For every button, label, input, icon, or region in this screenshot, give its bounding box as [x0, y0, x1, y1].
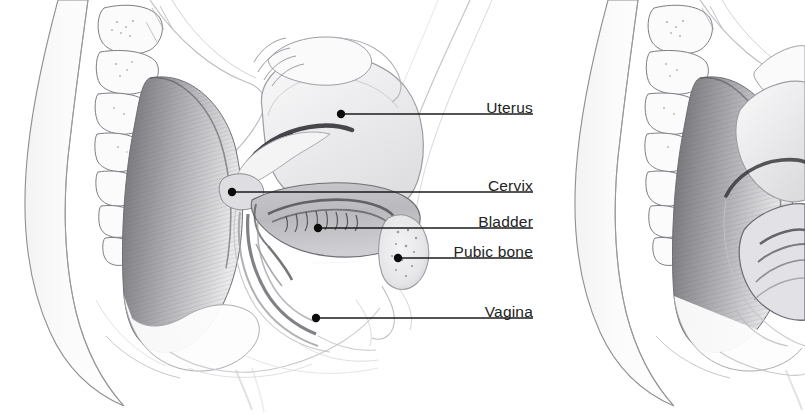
label-vagina: Vagina — [485, 304, 533, 320]
pubic-ramus — [372, 286, 394, 339]
label-bladder: Bladder — [478, 214, 533, 230]
anatomy-illustration — [0, 0, 805, 414]
leader-dot-pubic-bone — [394, 254, 402, 262]
right-panel-art — [575, 0, 805, 410]
label-uterus: Uterus — [486, 100, 533, 116]
left-panel-art — [25, 0, 492, 412]
label-cervix: Cervix — [488, 178, 533, 194]
pubic-bone — [379, 215, 429, 290]
leader-dot-cervix — [228, 188, 236, 196]
leader-dot-uterus — [337, 110, 345, 118]
label-pubic-bone: Pubic bone — [453, 244, 533, 260]
anatomy-figure: Uterus Cervix Bladder Pubic bone Vagina — [0, 0, 805, 414]
leader-dot-vagina — [312, 314, 320, 322]
urethra — [268, 246, 292, 280]
leader-dot-bladder — [314, 224, 322, 232]
